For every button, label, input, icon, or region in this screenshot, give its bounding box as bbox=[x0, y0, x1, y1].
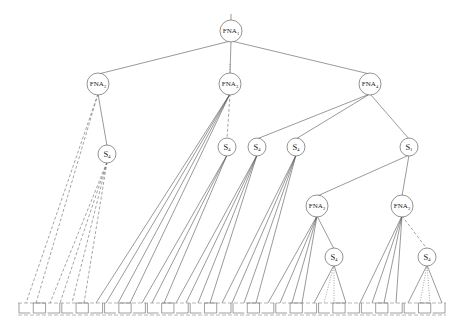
leaf-cell bbox=[361, 303, 372, 313]
tree-edge bbox=[257, 94, 370, 139]
leaf-edge bbox=[360, 216, 402, 303]
fna-node: FNA2 bbox=[306, 195, 328, 217]
tree-edge bbox=[317, 155, 409, 196]
leaf-cell bbox=[190, 303, 201, 313]
leaf-cell bbox=[347, 303, 359, 313]
node-label: FNA2 bbox=[309, 202, 325, 211]
leaf-edge bbox=[26, 94, 98, 303]
leaf-cell bbox=[62, 303, 73, 313]
leaf-cell bbox=[276, 303, 287, 313]
s-node: S4 bbox=[418, 248, 436, 266]
leaf-cell bbox=[76, 303, 88, 313]
leaf-edge bbox=[210, 155, 257, 303]
leaf-edge bbox=[222, 155, 296, 303]
tree-edge bbox=[98, 94, 107, 146]
leaf-edge bbox=[324, 265, 334, 303]
leaf-edge bbox=[280, 216, 317, 303]
leaf-cell bbox=[304, 303, 316, 313]
tree-edge bbox=[370, 94, 409, 139]
fna-node: FNA3 bbox=[219, 73, 241, 95]
s-node: S4 bbox=[287, 138, 305, 156]
leaf-cell bbox=[404, 303, 415, 313]
tree-edge bbox=[317, 216, 334, 249]
leaf-cell bbox=[90, 303, 102, 313]
node-label: FNA2 bbox=[90, 80, 106, 89]
leaf-cell bbox=[262, 303, 274, 313]
leaf-cell bbox=[390, 303, 402, 313]
leaf-cell bbox=[333, 303, 345, 313]
leaf-edge bbox=[130, 94, 230, 303]
tree-edge bbox=[230, 41, 231, 74]
leaf-cell bbox=[290, 303, 302, 313]
leaf-cell bbox=[219, 303, 231, 313]
leaf-cell bbox=[19, 303, 30, 313]
fna-node: FNA4 bbox=[359, 73, 381, 95]
leaf-edge bbox=[72, 162, 107, 303]
leaf-edge bbox=[198, 155, 257, 303]
leaf-edge bbox=[186, 155, 257, 303]
leaf-row bbox=[18, 303, 446, 315]
leaf-edge bbox=[84, 162, 107, 303]
leaf-edge bbox=[408, 265, 427, 303]
s-node: S4 bbox=[218, 138, 236, 156]
s-node: S4 bbox=[248, 138, 266, 156]
tree-edge bbox=[98, 41, 231, 74]
leaf-edge bbox=[60, 162, 107, 303]
tree-edge bbox=[402, 155, 409, 196]
leaf-edge bbox=[50, 162, 107, 303]
leaf-cell bbox=[247, 303, 259, 313]
leaf-edge bbox=[36, 94, 98, 303]
leaf-cell bbox=[133, 303, 145, 313]
leaf-cell bbox=[376, 303, 388, 313]
tree-edge bbox=[231, 41, 370, 74]
leaf-cell bbox=[433, 303, 445, 313]
leaf-edge bbox=[164, 155, 227, 303]
leaf-edge bbox=[142, 155, 227, 303]
node-label: FNA1 bbox=[223, 27, 239, 36]
leaf-edge bbox=[232, 155, 296, 303]
leaf-edge bbox=[334, 265, 346, 303]
leaf-cell bbox=[319, 303, 330, 313]
leaf-cell bbox=[204, 303, 216, 313]
node-label: FNA2 bbox=[394, 202, 410, 211]
tree-edge bbox=[402, 216, 427, 249]
tree-edge bbox=[296, 94, 370, 139]
leaf-cell bbox=[418, 303, 430, 313]
leaf-edge bbox=[314, 265, 334, 303]
fna-node: FNA2 bbox=[391, 195, 413, 217]
tree-nodes: FNA1FNA2FNA3FNA4S4S4S4S4S1FNA2FNA2S4S4 bbox=[87, 20, 436, 266]
leaf-cell bbox=[162, 303, 174, 313]
tree-edge bbox=[227, 94, 230, 139]
leaf-edge bbox=[176, 155, 257, 303]
leaf-cell bbox=[147, 303, 158, 313]
leaf-edge bbox=[256, 155, 296, 303]
leaf-cell bbox=[48, 303, 60, 313]
leaf-fan-edges bbox=[26, 94, 442, 303]
s-node: S1 bbox=[400, 138, 418, 156]
fna-node: FNA1 bbox=[220, 20, 242, 42]
leaf-edge bbox=[152, 155, 227, 303]
leaf-edge bbox=[96, 94, 230, 303]
s-node: S4 bbox=[325, 248, 343, 266]
leaf-edge bbox=[244, 155, 296, 303]
leaf-edge bbox=[427, 265, 442, 303]
leaf-cell bbox=[105, 303, 116, 313]
leaf-edge bbox=[420, 265, 427, 303]
fna-node: FNA2 bbox=[87, 73, 109, 95]
leaf-cell bbox=[176, 303, 188, 313]
leaf-cell bbox=[33, 303, 45, 313]
leaf-cell bbox=[233, 303, 244, 313]
leaf-cell bbox=[119, 303, 131, 313]
s-node: S4 bbox=[98, 145, 116, 163]
leaf-edge bbox=[118, 94, 230, 303]
tree-diagram: FNA1FNA2FNA3FNA4S4S4S4S4S1FNA2FNA2S4S4 bbox=[0, 0, 468, 334]
